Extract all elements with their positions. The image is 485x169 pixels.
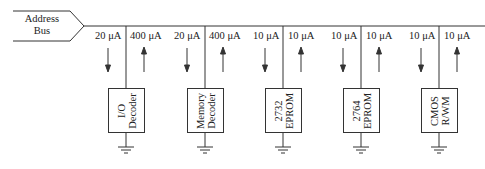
- memory-decoder-label-line2: Decoder: [206, 92, 217, 128]
- cmos-rwm-label: CMOS R/WM: [429, 96, 451, 126]
- cmos-rwm-label-line1: CMOS: [429, 96, 440, 126]
- eprom-2764-in-current: 10 μA: [331, 31, 357, 42]
- memory-decoder-out-current: 400 μA: [209, 31, 241, 42]
- address-bus-label: Address Bus: [12, 13, 72, 37]
- cmos-rwm-label-line2: R/WM: [440, 96, 451, 126]
- io-decoder-box: I/O Decoder: [108, 88, 145, 133]
- eprom-2764-label: 2764 EPROM: [351, 92, 373, 128]
- eprom-2764-box: 2764 EPROM: [343, 88, 380, 133]
- io-decoder-in-current: 20 μA: [95, 31, 121, 42]
- eprom-2732-label-line2: EPROM: [284, 92, 295, 128]
- diagram-lines: [0, 0, 485, 169]
- up-arrow-icon: [455, 47, 460, 54]
- bus-label-line2: Bus: [12, 25, 72, 37]
- memory-decoder-in-current: 20 μA: [174, 31, 200, 42]
- memory-decoder-box: Memory Decoder: [187, 88, 224, 133]
- eprom-2732-in-current: 10 μA: [253, 31, 279, 42]
- memory-decoder-label: Memory Decoder: [195, 92, 217, 128]
- cmos-rwm-out-current: 10 μA: [444, 31, 470, 42]
- down-arrow-icon: [419, 65, 424, 72]
- io-decoder-label-line2: Decoder: [127, 93, 138, 129]
- eprom-2732-label: 2732 EPROM: [273, 92, 295, 128]
- cmos-rwm-in-current: 10 μA: [409, 31, 435, 42]
- memory-decoder-label-line1: Memory: [195, 92, 206, 128]
- eprom-2732-out-current: 10 μA: [288, 31, 314, 42]
- down-arrow-icon: [185, 65, 190, 72]
- down-arrow-icon: [341, 65, 346, 72]
- up-arrow-icon: [221, 47, 226, 54]
- eprom-2764-label-line1: 2764: [351, 92, 362, 128]
- eprom-2764-out-current: 10 μA: [366, 31, 392, 42]
- io-decoder-out-current: 400 μA: [130, 31, 162, 42]
- eprom-2732-label-line1: 2732: [273, 92, 284, 128]
- io-decoder-label: I/O Decoder: [116, 93, 138, 129]
- bus-label-line1: Address: [12, 13, 72, 25]
- cmos-rwm-box: CMOS R/WM: [421, 88, 458, 133]
- io-decoder-label-line1: I/O: [116, 93, 127, 129]
- eprom-2764-label-line2: EPROM: [362, 92, 373, 128]
- eprom-2732-box: 2732 EPROM: [265, 88, 302, 133]
- down-arrow-icon: [106, 65, 111, 72]
- down-arrow-icon: [263, 65, 268, 72]
- up-arrow-icon: [142, 47, 147, 54]
- up-arrow-icon: [299, 47, 304, 54]
- up-arrow-icon: [377, 47, 382, 54]
